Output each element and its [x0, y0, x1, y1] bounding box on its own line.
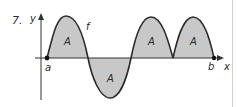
region-label-1: A [64, 37, 71, 47]
region-label-3: A [148, 37, 155, 47]
point-b [212, 56, 216, 60]
region-label-4: A [190, 37, 197, 47]
x-axis-label: x [224, 62, 230, 72]
point-a [45, 56, 50, 61]
y-axis-label: y [30, 14, 36, 24]
area-figure: 7. y x f a b A A A A [0, 0, 237, 107]
x-axis-arrow [217, 55, 224, 61]
page-edge-divider [232, 0, 233, 107]
region-label-2: A [107, 74, 114, 84]
function-label: f [86, 22, 90, 32]
endpoint-a-label: a [45, 63, 51, 73]
y-axis-arrow [38, 13, 44, 20]
endpoint-b-label: b [208, 62, 214, 72]
